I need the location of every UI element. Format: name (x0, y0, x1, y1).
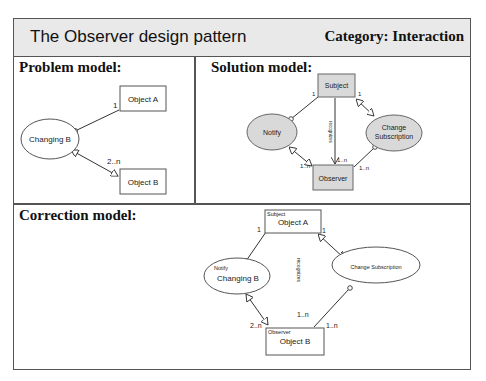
association-line (246, 232, 266, 261)
object-b-label: Object B (128, 178, 159, 187)
changing-b-label: Changing B (29, 135, 71, 144)
subject-label: Subject (325, 82, 348, 90)
notify-role-label: Notify (214, 265, 228, 271)
multiplicity-label: 1 (322, 227, 326, 234)
recognizes-label: recognizes (328, 121, 333, 144)
object-a-label: Object A (128, 95, 159, 104)
object-a-label: Object A (278, 218, 309, 227)
observer-role-label: Observer (268, 329, 291, 335)
dependency-arrow (356, 99, 374, 116)
multiplicity-label: 1 (312, 91, 316, 97)
correction-model-diagram: Subject Object A Notify Changing B Chang… (204, 210, 420, 355)
multiplicity-label: 1..n (300, 163, 310, 169)
change-subscription-label: Change Subscription (350, 264, 401, 270)
multiplicity-label: 1..n (326, 322, 338, 329)
interface-circle-icon (348, 286, 353, 291)
multiplicity-label: 1 (257, 226, 261, 233)
association-line (75, 110, 119, 131)
recognizes-label: recognizes (296, 258, 302, 283)
change-subscription-label-line1: Change (382, 124, 407, 132)
subject-role-label: Subject (267, 211, 286, 217)
dependency-arrow (246, 294, 268, 325)
observer-label: Observer (319, 175, 348, 182)
changing-b-label: Changing B (217, 274, 259, 283)
multiplicity-label: 1 (358, 91, 362, 97)
multiplicity-label: 1..n (297, 311, 309, 318)
multiplicity-label: 1 (113, 101, 118, 110)
notify-label: Notify (263, 129, 281, 137)
object-b-label: Object B (280, 337, 311, 346)
diagrams-canvas: Object A Changing B Object B 1 2..n Subj… (0, 0, 486, 381)
multiplicity-label: 2..n (250, 322, 262, 329)
change-subscription-label-line2: Subscription (375, 133, 414, 141)
multiplicity-label: 1..n (337, 157, 347, 163)
solution-model-diagram: Subject Notify Change Subscription Obser… (247, 74, 422, 190)
problem-model-diagram: Object A Changing B Object B 1 2..n (21, 86, 166, 194)
association-line (291, 97, 318, 119)
multiplicity-label: 2..n (107, 157, 120, 166)
multiplicity-label: 1..n (359, 165, 369, 171)
